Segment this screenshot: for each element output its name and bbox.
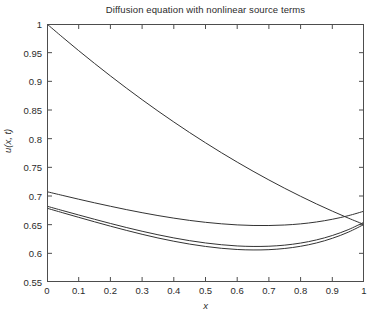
- series-line-3: [47, 208, 364, 250]
- y-tick-label: 0.8: [29, 133, 42, 144]
- y-tick-label: 0.9: [29, 76, 42, 87]
- y-tick-label: 1: [37, 19, 42, 30]
- x-tick-label: 0.4: [167, 285, 180, 296]
- x-tick-label: 0.1: [72, 285, 85, 296]
- page-title: Diffusion equation with nonlinear source…: [47, 4, 364, 15]
- y-tick-label: 0.6: [29, 248, 42, 259]
- y-tick-label: 0.55: [24, 277, 43, 288]
- x-tick-label: 0.2: [104, 285, 117, 296]
- series-line-0: [47, 24, 364, 224]
- series-line-1: [47, 192, 364, 226]
- x-tick-label: 0.6: [231, 285, 244, 296]
- y-axis-tick-labels: 0.550.60.650.70.750.80.850.90.951: [0, 24, 42, 282]
- series-line-2: [47, 206, 364, 246]
- x-tick-label: 0: [44, 285, 49, 296]
- x-axis-tick-labels: 00.10.20.30.40.50.60.70.80.91: [47, 285, 364, 299]
- x-tick-label: 0.9: [326, 285, 339, 296]
- x-tick-label: 0.8: [294, 285, 307, 296]
- y-tick-label: 0.65: [24, 219, 43, 230]
- y-tick-label: 0.85: [24, 105, 43, 116]
- figure-canvas: Diffusion equation with nonlinear source…: [0, 0, 382, 318]
- x-axis-label: x: [47, 300, 364, 311]
- y-tick-label: 0.95: [24, 47, 43, 58]
- y-tick-label: 0.75: [24, 162, 43, 173]
- plot-svg: [47, 24, 364, 282]
- x-tick-label: 1: [361, 285, 366, 296]
- x-tick-label: 0.5: [199, 285, 212, 296]
- plot-area: [47, 24, 364, 282]
- data-curves: [47, 24, 364, 250]
- y-tick-label: 0.7: [29, 191, 42, 202]
- x-tick-label: 0.7: [262, 285, 275, 296]
- x-tick-label: 0.3: [135, 285, 148, 296]
